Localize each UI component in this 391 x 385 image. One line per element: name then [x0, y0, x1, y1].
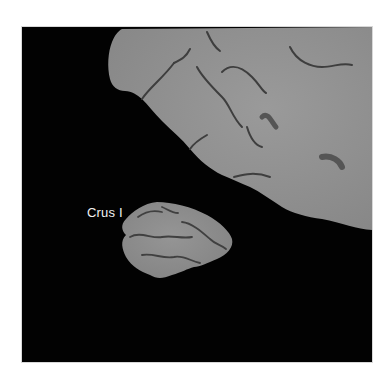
- micrograph-frame: [22, 27, 372, 362]
- tissue-section-image: [22, 27, 372, 362]
- upper-cerebellum-tissue: [108, 27, 372, 230]
- crus-i-label: Crus I: [87, 205, 123, 220]
